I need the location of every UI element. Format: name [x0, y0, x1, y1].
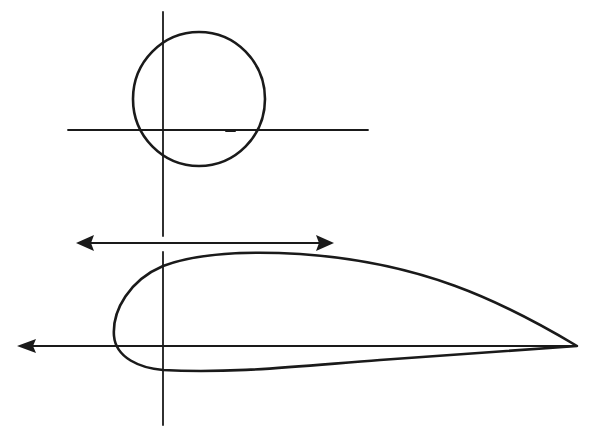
double-arrow	[76, 235, 334, 251]
airfoil-shape	[114, 253, 577, 371]
circle-figure	[68, 12, 368, 236]
circle-shape	[133, 32, 265, 166]
airfoil-figure	[17, 252, 577, 425]
circle-airfoil-diagram	[0, 0, 590, 443]
